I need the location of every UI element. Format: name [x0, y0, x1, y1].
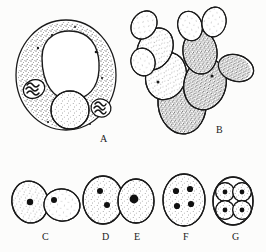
panel-label-g: G — [232, 232, 240, 242]
yeast-morphology-illustration — [0, 0, 266, 252]
panel-f-cell — [163, 174, 205, 226]
figure-root: A B C D E F G Yeast cell morphology and … — [0, 0, 266, 252]
nucleus-a — [51, 91, 89, 129]
nucleus-c1 — [27, 199, 33, 205]
panel-label-c: C — [42, 232, 49, 242]
panel-d-cell — [83, 176, 123, 224]
nucleus-f4 — [188, 201, 194, 207]
vacuole-a — [42, 31, 99, 100]
panel-g-ascus — [213, 177, 253, 225]
nucleus-d1 — [97, 188, 103, 194]
panel-label-f: F — [183, 232, 189, 242]
nucleus-f1 — [173, 188, 179, 194]
nucleus-f2 — [187, 186, 193, 192]
panel-label-b: B — [216, 125, 223, 135]
nucleus-f3 — [174, 203, 180, 209]
panel-label-d: D — [102, 232, 110, 242]
nucleus-d2 — [104, 202, 110, 208]
panel-label-a: A — [100, 134, 108, 144]
panel-label-e: E — [134, 232, 140, 242]
nucleus-c2 — [51, 197, 57, 203]
panel-a-cell — [16, 20, 116, 130]
nucleus-e1 — [130, 195, 139, 204]
panel-e-cell — [118, 179, 154, 223]
